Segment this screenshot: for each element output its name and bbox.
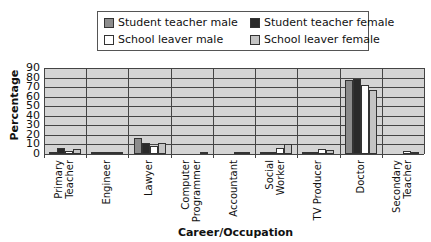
- x-tick-label-wrap: Accountant: [213, 160, 255, 210]
- x-tick: [128, 154, 129, 158]
- bar: [142, 143, 150, 154]
- chart-legend: Student teacher male Student teacher fem…: [97, 11, 369, 51]
- legend-item-student-teacher-male: Student teacher male: [104, 17, 238, 29]
- y-tick-label: 0: [22, 148, 40, 159]
- legend-label: Student teacher female: [264, 17, 394, 29]
- x-tick-label: Doctor: [355, 160, 366, 210]
- x-axis-title: Career/Occupation: [0, 226, 431, 239]
- x-tick-label-wrap: Primary Teacher: [44, 160, 86, 210]
- category-divider: [424, 68, 425, 154]
- bar: [353, 79, 361, 154]
- x-tick-label: Primary Teacher: [53, 160, 75, 210]
- bar: [302, 152, 310, 154]
- category-divider: [44, 68, 45, 154]
- x-tick-label: Engineer: [101, 160, 112, 210]
- plot-area: [44, 68, 425, 154]
- x-tick-label: Social Worker: [264, 160, 286, 210]
- x-tick-label-wrap: Lawyer: [128, 160, 170, 210]
- x-tick-label-wrap: TV Producer: [297, 160, 339, 210]
- bar: [326, 150, 334, 154]
- bar: [242, 152, 250, 154]
- x-tick: [255, 154, 256, 158]
- bar: [310, 152, 318, 154]
- y-axis-title: Percentage: [8, 81, 21, 141]
- x-tick-label: Secondary Teacher: [391, 160, 413, 210]
- x-tick: [86, 154, 87, 158]
- bar: [150, 146, 158, 154]
- bar: [99, 152, 107, 154]
- bar: [234, 152, 242, 154]
- x-tick: [44, 154, 45, 158]
- bar: [361, 85, 369, 154]
- x-tick-label: Accountant: [228, 160, 239, 210]
- bar: [345, 80, 353, 154]
- bar: [260, 152, 268, 154]
- x-tick: [171, 154, 172, 158]
- legend-item-school-leaver-female: School leaver female: [250, 34, 380, 46]
- bar: [107, 152, 115, 154]
- bar: [284, 144, 292, 154]
- bar: [268, 152, 276, 154]
- legend-swatch: [250, 35, 260, 45]
- bar: [318, 149, 326, 154]
- legend-swatch: [104, 35, 114, 45]
- x-tick-label: Computer Programmer: [180, 160, 202, 210]
- bar: [411, 152, 419, 154]
- category-divider: [340, 68, 341, 154]
- x-tick-label-wrap: Engineer: [86, 160, 128, 210]
- category-divider: [213, 68, 214, 154]
- bar: [158, 143, 166, 154]
- bar: [73, 149, 81, 154]
- category-divider: [128, 68, 129, 154]
- gridline: [44, 154, 424, 155]
- bar: [403, 151, 411, 154]
- legend-item-school-leaver-male: School leaver male: [104, 34, 223, 46]
- x-tick-label-wrap: Secondary Teacher: [382, 160, 424, 210]
- category-divider: [382, 68, 383, 154]
- bar: [57, 148, 65, 154]
- x-tick-label: Lawyer: [143, 160, 154, 210]
- legend-label: School leaver female: [264, 34, 380, 46]
- bar: [369, 90, 377, 154]
- bar: [91, 152, 99, 154]
- category-divider: [297, 68, 298, 154]
- x-tick-label-wrap: Computer Programmer: [171, 160, 213, 210]
- category-divider: [171, 68, 172, 154]
- x-tick: [213, 154, 214, 158]
- category-divider: [255, 68, 256, 154]
- legend-label: Student teacher male: [118, 17, 238, 29]
- bar: [65, 151, 73, 154]
- category-divider: [86, 68, 87, 154]
- gridline: [44, 78, 424, 79]
- bar: [134, 138, 142, 154]
- bar: [49, 152, 57, 154]
- legend-swatch: [104, 18, 114, 28]
- legend-swatch: [250, 18, 260, 28]
- legend-label: School leaver male: [118, 34, 223, 46]
- x-tick-label: TV Producer: [312, 160, 323, 210]
- x-tick: [340, 154, 341, 158]
- legend-item-student-teacher-female: Student teacher female: [250, 17, 394, 29]
- gridline: [44, 68, 424, 69]
- bar: [200, 152, 208, 154]
- bar: [276, 148, 284, 154]
- bar: [115, 152, 123, 154]
- x-tick-label-wrap: Doctor: [340, 160, 382, 210]
- x-tick-label-wrap: Social Worker: [255, 160, 297, 210]
- x-tick: [297, 154, 298, 158]
- x-tick: [382, 154, 383, 158]
